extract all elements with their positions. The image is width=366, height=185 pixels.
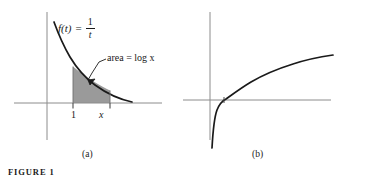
x-tick-label-x: x bbox=[99, 110, 103, 120]
panel-a: f(t) = 1 t area = log x 1 x bbox=[0, 0, 183, 165]
panel-b-graphic bbox=[183, 0, 366, 165]
panel-b: log 1 bbox=[183, 0, 366, 165]
fraction-one-over-t: 1 t bbox=[86, 17, 95, 40]
shaded-area-region bbox=[73, 67, 110, 104]
fraction-numerator: 1 bbox=[86, 17, 95, 27]
figure-title: FIGURE 1 bbox=[8, 168, 55, 177]
caption-panel-a: (a) bbox=[82, 150, 93, 160]
curve-log bbox=[212, 55, 333, 148]
function-label: f(t) = 1 t bbox=[58, 17, 95, 40]
x-tick-label-one: 1 bbox=[71, 110, 76, 120]
function-name: f(t) bbox=[58, 23, 71, 34]
caption-panel-b: (b) bbox=[252, 150, 263, 160]
annotation-leader-line bbox=[88, 59, 106, 80]
area-annotation-text: area = log x bbox=[107, 52, 155, 63]
figure-container: f(t) = 1 t area = log x 1 x log bbox=[0, 0, 366, 185]
area-annotation-label: area = log x bbox=[107, 53, 155, 63]
function-equals-sign: = bbox=[74, 23, 82, 34]
fraction-denominator: t bbox=[87, 30, 94, 40]
